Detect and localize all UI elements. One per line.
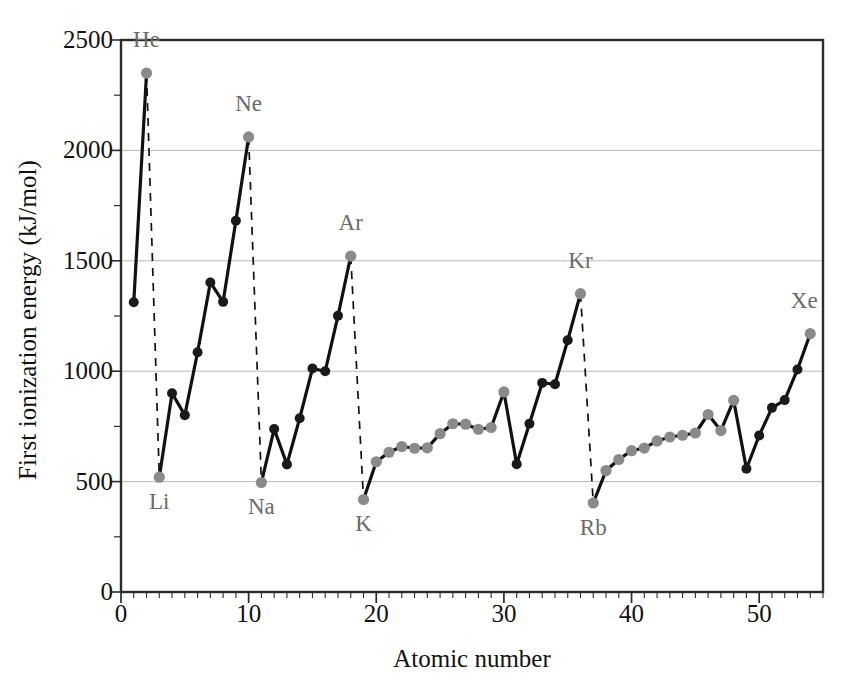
data-point-marker xyxy=(588,497,599,508)
data-point-marker xyxy=(409,443,420,454)
data-point-marker xyxy=(715,425,726,436)
data-point-marker xyxy=(282,459,292,469)
data-point-marker xyxy=(422,442,433,453)
data-point-marker xyxy=(269,424,279,434)
data-point-marker xyxy=(741,464,751,474)
data-point-marker xyxy=(256,477,267,488)
data-point-marker xyxy=(358,494,369,505)
plot-frame xyxy=(121,40,823,592)
data-point-marker xyxy=(651,435,662,446)
data-point-marker xyxy=(447,418,458,429)
data-point-marker xyxy=(703,409,714,420)
data-point-marker xyxy=(805,328,816,339)
data-point-marker xyxy=(677,430,688,441)
data-point-marker xyxy=(639,442,650,453)
point-annotation-label: Li xyxy=(149,489,169,514)
data-point-marker xyxy=(498,386,509,397)
point-annotation-label: He xyxy=(133,27,160,52)
data-point-marker xyxy=(563,335,573,345)
data-line-segment xyxy=(364,294,581,500)
data-point-marker xyxy=(792,364,802,374)
point-annotation-label: Rb xyxy=(580,515,607,540)
data-point-marker xyxy=(333,311,343,321)
data-point-marker xyxy=(193,347,203,357)
data-line-segment xyxy=(134,73,147,302)
data-point-marker xyxy=(243,131,254,142)
point-annotation-label: Kr xyxy=(568,248,593,273)
data-point-marker xyxy=(690,427,701,438)
data-point-marker xyxy=(180,410,190,420)
data-point-marker xyxy=(371,456,382,467)
data-point-marker xyxy=(154,472,165,483)
point-annotation-label: K xyxy=(355,511,372,536)
data-point-marker xyxy=(218,297,228,307)
data-point-marker xyxy=(205,277,215,287)
data-line-segment xyxy=(261,256,350,482)
data-point-marker xyxy=(664,431,675,442)
data-line-segment xyxy=(593,334,810,503)
drop-line-dashed xyxy=(249,137,262,483)
data-point-marker xyxy=(575,288,586,299)
data-line-segment xyxy=(159,137,248,477)
data-point-marker xyxy=(434,428,445,439)
data-point-marker xyxy=(345,251,356,262)
data-point-marker xyxy=(141,68,152,79)
data-point-marker xyxy=(550,379,560,389)
point-annotation-label: Ar xyxy=(339,210,364,235)
data-point-marker xyxy=(537,378,547,388)
data-point-marker xyxy=(307,364,317,374)
data-point-marker xyxy=(524,419,534,429)
data-point-marker xyxy=(613,454,624,465)
point-annotation-label: Na xyxy=(248,494,275,519)
data-point-marker xyxy=(396,441,407,452)
data-point-marker xyxy=(295,413,305,423)
data-point-marker xyxy=(167,388,177,398)
data-point-marker xyxy=(383,447,394,458)
data-point-marker xyxy=(129,297,139,307)
data-point-marker xyxy=(728,395,739,406)
ionization-energy-chart: First ionization energy (kJ/mol) 0500100… xyxy=(0,0,844,688)
drop-line-dashed xyxy=(147,73,160,477)
data-point-marker xyxy=(780,395,790,405)
data-point-marker xyxy=(600,465,611,476)
data-point-marker xyxy=(460,419,471,430)
data-point-marker xyxy=(231,216,241,226)
point-annotation-label: Ne xyxy=(235,91,262,116)
data-point-marker xyxy=(486,422,497,433)
plot-area: HeNeArKrXeLiNaKRb xyxy=(0,0,844,688)
data-point-marker xyxy=(512,459,522,469)
drop-line-dashed xyxy=(351,256,364,499)
point-annotation-label: Xe xyxy=(791,288,818,313)
drop-line-dashed xyxy=(580,294,593,503)
data-point-marker xyxy=(626,445,637,456)
data-point-marker xyxy=(767,403,777,413)
data-point-marker xyxy=(754,430,764,440)
data-point-marker xyxy=(473,424,484,435)
data-point-marker xyxy=(320,366,330,376)
